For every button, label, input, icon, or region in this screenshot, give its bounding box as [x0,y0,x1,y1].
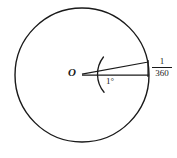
arc-fraction-numerator: 1 [158,57,167,66]
arc-fraction-denominator: 360 [153,68,171,78]
figure-canvas [0,0,177,158]
central-angle-label: 1° [106,77,114,86]
arc-fraction-label: 1 360 [152,57,172,79]
circle-center-label: O [68,67,76,78]
radius-line-upper [82,62,148,74]
geometry-figure: O 1° 1 360 [0,0,177,158]
